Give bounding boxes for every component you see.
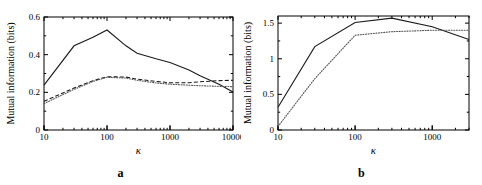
y-tick-label: 0.4 xyxy=(29,50,41,60)
y-tick-label: 1.5 xyxy=(263,18,275,28)
x-axis-title: κ xyxy=(136,144,142,156)
chart-panel-b: 10100100000.511.5κMutual information (bi… xyxy=(241,0,482,185)
x-tick-label: 1000 xyxy=(161,132,180,142)
series-line-solid xyxy=(278,18,469,107)
chart-a-plot: 1010010001000000.20.40.6κMutual informat… xyxy=(0,0,241,160)
x-tick-label: 1000 xyxy=(423,132,442,142)
y-tick-label: 0 xyxy=(36,125,41,135)
y-tick-label: 0 xyxy=(270,125,275,135)
series-line-dotted xyxy=(44,77,233,103)
panel-b-letter: b xyxy=(241,166,482,181)
x-axis-title: κ xyxy=(371,144,377,156)
series-line-dotted xyxy=(278,30,469,126)
chart-b-plot: 10100100000.511.5κMutual information (bi… xyxy=(241,0,482,160)
x-tick-label: 100 xyxy=(348,132,362,142)
plot-frame xyxy=(44,17,233,130)
y-tick-label: 0.2 xyxy=(29,87,40,97)
y-tick-label: 0.6 xyxy=(29,12,41,22)
x-tick-label: 100 xyxy=(100,132,114,142)
figure-container: 1010010001000000.20.40.6κMutual informat… xyxy=(0,0,482,185)
x-tick-label: 10000 xyxy=(222,132,241,142)
y-tick-label: 0.5 xyxy=(263,89,275,99)
y-axis-title: Mutual information (bits) xyxy=(5,22,17,124)
y-axis-title: Mutual information (bits) xyxy=(242,22,254,124)
x-tick-label: 10 xyxy=(274,132,284,142)
y-tick-label: 1 xyxy=(270,54,275,64)
x-tick-label: 10 xyxy=(40,132,50,142)
series-line-solid xyxy=(44,30,233,92)
chart-panel-a: 1010010001000000.20.40.6κMutual informat… xyxy=(0,0,241,185)
panel-a-letter: a xyxy=(0,166,241,181)
